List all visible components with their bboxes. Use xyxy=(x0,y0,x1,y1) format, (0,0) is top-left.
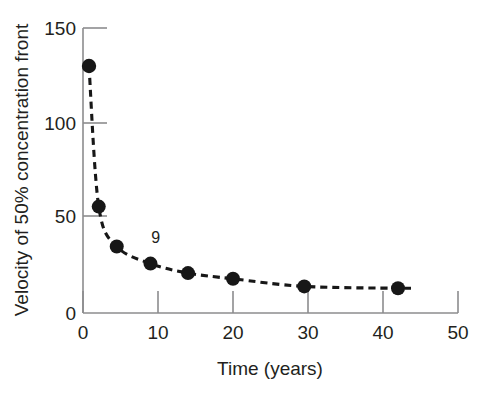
data-point-marker xyxy=(391,281,405,295)
y-tick-label-150: 150 xyxy=(44,18,76,39)
x-tick-label-0: 0 xyxy=(78,322,89,343)
y-tick-label-100: 100 xyxy=(44,113,76,134)
data-point-marker xyxy=(297,279,311,293)
x-tick-label-10: 10 xyxy=(147,322,168,343)
y-tick-label-0: 0 xyxy=(65,303,76,324)
chart-figure: 150 100 50 0 0 10 20 30 40 50 9 Time (ye… xyxy=(0,0,483,395)
x-tick-label-20: 20 xyxy=(222,322,243,343)
data-point-marker xyxy=(110,240,124,254)
x-tick-label-30: 30 xyxy=(297,322,318,343)
data-point-marker xyxy=(82,59,96,73)
x-tick-label-40: 40 xyxy=(372,322,393,343)
data-point-marker xyxy=(92,200,106,214)
y-tick-label-50: 50 xyxy=(55,206,76,227)
point-annotation-label: 9 xyxy=(151,229,160,246)
x-axis-title: Time (years) xyxy=(217,358,323,379)
data-point-marker xyxy=(226,272,240,286)
data-point-marker xyxy=(181,266,195,280)
x-tick-label-50: 50 xyxy=(447,322,468,343)
data-point-marker xyxy=(144,257,158,271)
y-axis-title: Velocity of 50% concentration front xyxy=(11,23,32,316)
chart-annotations: 9 xyxy=(151,229,160,246)
